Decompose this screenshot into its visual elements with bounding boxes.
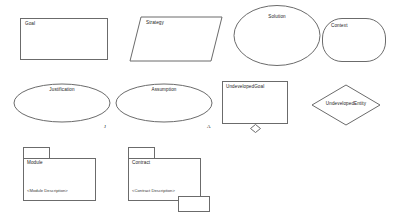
justification-label: Justification — [13, 88, 111, 93]
module-label: Module — [27, 161, 43, 166]
goal-label: Goal — [25, 22, 35, 27]
undeveloped-goal-label: UndevelopedGoal — [226, 85, 264, 90]
assumption-label: Assumption — [115, 88, 213, 93]
undeveloped-entity-label: UndevelopedEntity — [311, 102, 381, 107]
module-description: <Module Description> — [27, 189, 68, 193]
undeveloped-diamond-icon — [250, 124, 261, 133]
assumption-marker: A — [207, 124, 211, 129]
strategy-label: Strategy — [146, 21, 164, 26]
contract-extension-box — [178, 196, 210, 212]
justification-marker: J — [104, 124, 106, 129]
gsn-notation-legend-diagram: Goal Strategy Solution Context Justifica… — [0, 0, 394, 221]
solution-label: Solution — [233, 15, 321, 20]
contract-label: Contract — [132, 161, 150, 166]
contract-description: <Contract Description> — [132, 189, 175, 193]
strategy-node[interactable] — [129, 16, 223, 62]
context-label: Context — [331, 24, 348, 29]
